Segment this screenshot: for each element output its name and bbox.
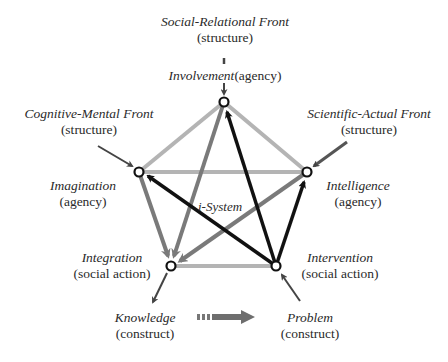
- label-imagination: Imagination (agency): [40, 178, 126, 210]
- label-social-front: Social-Relational Front (structure): [150, 14, 300, 46]
- label-scientific-front: Scientific-Actual Front (structure): [294, 106, 444, 138]
- node-involvement: [220, 98, 229, 107]
- label-intervention: Intervention (social action): [290, 250, 390, 282]
- edge-imagination-integration: [139, 172, 168, 256]
- label-cognitive-front: Cognitive-Mental Front (structure): [14, 106, 164, 138]
- edge-intervention-involvement: [227, 112, 276, 266]
- node-intervention: [272, 262, 281, 271]
- node-imagination: [135, 168, 144, 177]
- label-problem: Problem (construct): [270, 310, 350, 342]
- cognitive-front-arrow: [98, 146, 132, 166]
- scientific-front-arrow: [314, 142, 347, 166]
- edge-intelligence-integration: [180, 172, 307, 261]
- label-knowledge: Knowledge (construct): [105, 310, 185, 342]
- mid-edges: [139, 102, 307, 261]
- label-integration: Integration (social action): [62, 250, 162, 282]
- label-involvement: Involvement(agency): [160, 68, 290, 84]
- node-intelligence: [303, 168, 312, 177]
- label-intelligence: Intelligence (agency): [315, 178, 401, 210]
- label-i-system: i-System: [198, 199, 242, 215]
- i-system-diagram: Social-Relational Front (structure) Cogn…: [0, 0, 448, 362]
- knowledge-to-problem-arrow: [197, 314, 245, 320]
- node-integration: [167, 262, 176, 271]
